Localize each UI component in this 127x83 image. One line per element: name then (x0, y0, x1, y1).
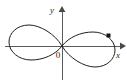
marked-point (107, 34, 111, 38)
y-axis-label: y (49, 5, 54, 15)
y-axis-arrow-icon (59, 6, 66, 12)
figure-canvas: y x 0 (0, 0, 127, 83)
x-axis-arrow-icon (120, 43, 126, 50)
origin-label: 0 (56, 50, 61, 60)
lemniscate-figure: y x 0 (0, 0, 127, 83)
x-axis-label: x (115, 50, 120, 60)
